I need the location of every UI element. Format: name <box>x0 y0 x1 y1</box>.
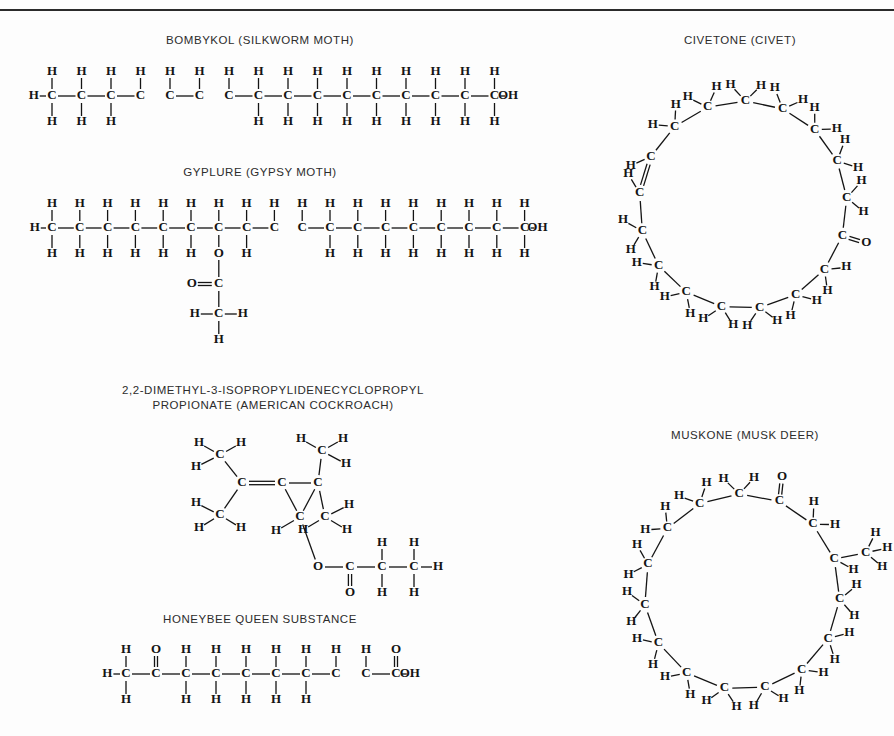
hydrogen-atom: H <box>381 195 391 210</box>
bond-c-h <box>331 508 343 514</box>
ring-carbon: C <box>830 550 839 565</box>
carbon-atom: C <box>271 665 280 680</box>
hydrogen-atom: H <box>698 310 708 325</box>
bond-c-h <box>201 506 213 512</box>
hydrogen-atom: H <box>214 195 224 210</box>
hydrogen-atom: H <box>632 254 642 269</box>
ring-bond <box>694 295 715 304</box>
hydrogen-atom: H <box>870 524 880 539</box>
bond-c-h <box>671 294 680 296</box>
methyl-carbon: C <box>215 446 224 461</box>
ring-carbon: C <box>838 227 847 242</box>
hydrogen-atom: H <box>433 558 443 573</box>
muskone-svg: CCCCCCCCCCCCCCCHHHHHHHHHHHHHHHHHHHHHHHHH… <box>605 452 885 727</box>
hydrogen-atom: H <box>859 203 869 218</box>
ring-bond <box>664 649 681 667</box>
bond-c-c <box>319 459 321 475</box>
carbonyl-oxygen: O <box>861 234 871 249</box>
ring-bond <box>674 509 694 524</box>
hydrogen-atom: H <box>236 434 246 449</box>
carbon-atom: C <box>214 219 223 234</box>
hydrogen-atom: H <box>76 63 86 78</box>
hydrogen-atom: H <box>464 195 474 210</box>
ring-bond <box>753 103 775 108</box>
ring-bond <box>802 275 819 290</box>
hydrogen-atom: H <box>648 656 658 671</box>
bond-c-h <box>636 159 644 163</box>
terminal-hydrogen: H <box>30 219 40 234</box>
hydrogen-atom: H <box>623 566 633 581</box>
hydrogen-atom: H <box>809 493 819 508</box>
ring-bond <box>767 297 788 305</box>
hydrogen-atom: H <box>296 430 306 445</box>
ring-bond <box>656 133 670 150</box>
hydrogen-atom: H <box>882 539 892 554</box>
hydrogen-atom: H <box>812 292 822 307</box>
carbon-atom: C <box>136 87 145 102</box>
hydrogen-atom: H <box>338 430 348 445</box>
ring-bond <box>645 572 647 597</box>
hydrogen-atom: H <box>186 195 196 210</box>
bond-c-h <box>789 103 797 107</box>
hydrogen-atom: H <box>671 96 681 111</box>
ring-double-bond <box>641 164 648 185</box>
caption-gyplure: GYPLURE (GYPSY MOTH) <box>105 165 415 180</box>
hydrogen-atom: H <box>301 641 311 656</box>
methyl-carbon: C <box>409 558 418 573</box>
caption-bombykol: BOMBYKOL (SILKWORM MOTH) <box>95 33 425 48</box>
hydrogen-atom: H <box>283 63 293 78</box>
ring-carbon: C <box>720 679 729 694</box>
carbon-atom: C <box>47 87 56 102</box>
hydrogen-atom: H <box>211 641 221 656</box>
hydrogen-atom: H <box>660 498 670 513</box>
ring-bond <box>843 206 846 228</box>
ring-bond <box>664 271 680 286</box>
carbon-atom: C <box>372 87 381 102</box>
hydrogen-atom: H <box>121 641 131 656</box>
carbon-atom: C <box>186 219 195 234</box>
ring-bond <box>835 567 838 592</box>
ring-carbon: C <box>810 121 819 136</box>
bond-c-h <box>226 446 236 452</box>
carbon-atom: C <box>325 219 334 234</box>
hydrogen-atom: H <box>460 63 470 78</box>
ring-carbon: C <box>775 492 784 507</box>
carbon-atom: C <box>106 87 115 102</box>
carbon-atom: C <box>353 219 362 234</box>
hydrogen-atom: H <box>622 583 632 598</box>
hydrogen-atom: H <box>685 686 695 701</box>
bond-c-h <box>308 521 319 527</box>
hydrogen-atom: H <box>520 195 530 210</box>
ring-bond <box>303 489 314 511</box>
bond-c-h <box>204 519 214 525</box>
bond-c-h <box>204 446 214 452</box>
ring-carbon: C <box>670 118 679 133</box>
carbon-atom: C <box>103 219 112 234</box>
ring-bond <box>732 687 757 688</box>
bond-c-h <box>331 521 342 527</box>
honeybee-svg: HCCCCCCCCCCHHHHHHHHHHHHHHOOOH <box>100 638 430 710</box>
caption-civetone: CIVETONE (CIVET) <box>615 33 865 48</box>
ring-carbon: C <box>646 148 655 163</box>
bond-c-h <box>844 163 853 166</box>
bond-c-h <box>809 671 818 672</box>
carbon-atom: C <box>460 87 469 102</box>
ring-bond <box>640 201 642 223</box>
ring-carbon: C <box>313 474 322 489</box>
hydrogen-atom: H <box>772 312 782 327</box>
hydrogen-atom: H <box>770 79 780 94</box>
hydrogen-atom: H <box>191 494 201 509</box>
terminal-group: OH <box>400 665 420 680</box>
hydrogen-atom: H <box>492 195 502 210</box>
ring-carbon: C <box>640 596 649 611</box>
ring-bond <box>694 676 717 685</box>
carbon-atom: C <box>181 665 190 680</box>
hydrogen-atom: H <box>810 99 820 114</box>
hydrogen-atom: H <box>253 63 263 78</box>
bond-c-h <box>628 223 636 227</box>
hydrogen-atom: H <box>269 195 279 210</box>
double-bond-carbonyl <box>850 236 861 239</box>
carbon-atom: C <box>342 87 351 102</box>
bombykol-svg: HCCCCCCCCCCCCCCCCHHHHHHHHHHHHHHHHHHHHHHH… <box>26 60 546 138</box>
hydrogen-atom: H <box>377 534 387 549</box>
